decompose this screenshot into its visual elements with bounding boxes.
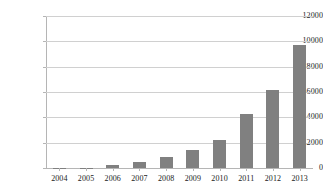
x-tick-mark-2005 [86, 168, 87, 171]
x-tick-label-2004: 2004 [46, 174, 73, 183]
bar-2013 [293, 45, 306, 169]
bar-2009 [186, 150, 199, 168]
x-tick-mark-2013 [300, 168, 301, 171]
x-tick-mark-2007 [139, 168, 140, 171]
x-tick-label-2007: 2007 [126, 174, 153, 183]
plot-area [46, 16, 313, 168]
x-tick-label-2008: 2008 [153, 174, 180, 183]
x-tick-label-2010: 2010 [206, 174, 233, 183]
bar-2010 [213, 140, 226, 169]
x-tick-label-2005: 2005 [73, 174, 100, 183]
x-tick-mark-2010 [220, 168, 221, 171]
x-tick-mark-2006 [113, 168, 114, 171]
x-tick-mark-2012 [273, 168, 274, 171]
x-tick-mark-2008 [166, 168, 167, 171]
bar-2012 [266, 90, 279, 168]
x-tick-label-2012: 2012 [260, 174, 287, 183]
bars-layer [46, 16, 313, 168]
x-tick-label-2011: 2011 [233, 174, 260, 183]
x-tick-mark-2011 [246, 168, 247, 171]
bar-chart: 020004000600080001000012000 200420052006… [0, 0, 323, 196]
bar-2008 [160, 157, 173, 168]
x-tick-label-2013: 2013 [286, 174, 313, 183]
x-tick-mark-2009 [193, 168, 194, 171]
bar-2011 [240, 114, 253, 168]
x-tick-mark-2004 [59, 168, 60, 171]
x-tick-label-2006: 2006 [99, 174, 126, 183]
x-tick-label-2009: 2009 [180, 174, 207, 183]
